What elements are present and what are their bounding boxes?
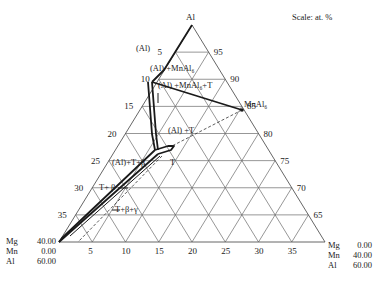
beta-boundary-3 <box>70 156 160 236</box>
left-tick-label: 30 <box>74 183 84 193</box>
bottom-axis-ticks: 5101520253035 <box>88 246 297 256</box>
left-tick-label: 15 <box>124 101 134 111</box>
label-al: (Al) <box>136 43 150 53</box>
left-tick-label: 5 <box>157 47 162 57</box>
right-corner-row: Mn40.00 <box>328 250 372 260</box>
grid-line <box>225 161 275 242</box>
left-corner-row: Al60.00 <box>6 256 56 266</box>
bottom-tick-label: 30 <box>255 246 265 256</box>
right-tick-label: 75 <box>280 156 290 166</box>
label-t-beta: T+ β <box>99 182 115 192</box>
label-al-mnal6: (Al) +MnAl₆ <box>150 63 194 73</box>
grid-line <box>292 215 309 242</box>
right-tick-label: 70 <box>297 183 307 193</box>
bottom-tick-label: 25 <box>221 246 231 256</box>
label-al-mnal6-t: (Al) +MnAl₆+T <box>158 80 213 90</box>
bottom-tick-label: 20 <box>188 246 198 256</box>
left-corner-row: Mg40.00 <box>6 236 56 246</box>
label-al-t-beta: (Al)+T+β <box>112 157 145 167</box>
label-mnal6: MnAl₆ <box>244 99 267 109</box>
right-tick-label: 90 <box>230 74 240 84</box>
grid-line <box>109 161 159 242</box>
ternary-phase-diagram: 5101520253035 95908580757065 51015202530… <box>0 0 378 283</box>
left-tick-label: 35 <box>58 210 68 220</box>
left-tick-label: 25 <box>91 156 101 166</box>
bottom-tick-label: 10 <box>122 246 132 256</box>
right-corner-row: Mg0.00 <box>328 240 372 250</box>
right-tick-label: 95 <box>214 47 224 57</box>
bottom-tick-label: 5 <box>88 246 93 256</box>
label-t-beta-gamma: T+β+γ <box>115 204 138 214</box>
left-tick-label: 10 <box>141 74 151 84</box>
left-corner-row: Mn0.00 <box>6 246 56 256</box>
right-corner-row: Al60.00 <box>328 260 372 270</box>
scale-label: Scale: at. % <box>292 12 332 22</box>
bottom-tick-label: 35 <box>288 246 298 256</box>
left-corner-composition: Mg40.00 Mn0.00 Al60.00 <box>6 236 56 266</box>
beta-boundary-1 <box>59 154 158 242</box>
right-corner-composition: Mg0.00 Mn40.00 Al60.00 <box>328 240 372 270</box>
right-tick-label: 80 <box>264 129 274 139</box>
label-al-t: (Al) +T <box>168 125 195 135</box>
apex-label: Al <box>186 12 195 22</box>
label-t: T <box>170 157 176 167</box>
left-tick-label: 20 <box>108 129 118 139</box>
bottom-tick-label: 15 <box>155 246 165 256</box>
right-tick-label: 65 <box>313 210 323 220</box>
dashed-t-gamma <box>78 156 162 242</box>
